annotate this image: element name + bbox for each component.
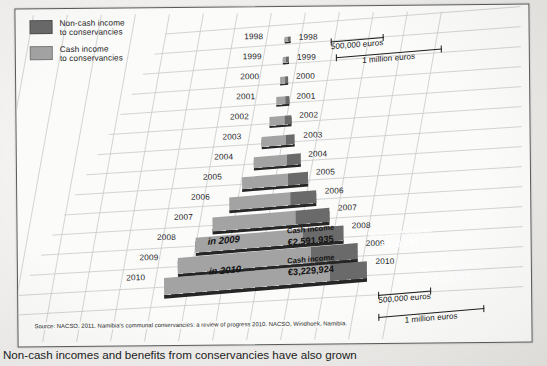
- year-label-right-2005: 2005: [316, 168, 335, 177]
- year-label-right-2003: 2003: [303, 130, 322, 139]
- year-label-left-1998: 1998: [244, 32, 263, 41]
- year-label-left-2004: 2004: [214, 152, 233, 161]
- bar-segment-noncash-2000: [285, 76, 288, 83]
- year-label-right-2006: 2006: [325, 186, 344, 195]
- year-label-right-2010: 2010: [375, 257, 394, 266]
- year-label-right-2007: 2007: [338, 204, 357, 213]
- year-label-left-2002: 2002: [230, 112, 249, 121]
- year-label-left-2010: 2010: [126, 273, 145, 282]
- year-label-right-2009: 2009: [366, 239, 385, 248]
- bar-segment-noncash-2001: [285, 96, 289, 104]
- year-label-left-2008: 2008: [157, 233, 176, 242]
- year-label-right-1998: 1998: [299, 32, 318, 41]
- legend-label-cash: Cash income to conservancies: [60, 44, 123, 63]
- year-label-left-2000: 2000: [240, 72, 259, 81]
- legend-label-non-cash: Non-cash income to conservancies: [59, 18, 124, 37]
- legend-item-non-cash: Non-cash income to conservancies: [29, 18, 169, 38]
- bar-2001: [276, 96, 289, 105]
- year-label-right-2008: 2008: [352, 221, 371, 230]
- bar-segment-noncash-2006: [291, 190, 317, 205]
- year-label-right-2001: 2001: [296, 92, 315, 101]
- year-label-left-2006: 2006: [191, 193, 210, 202]
- year-label-right-1999: 1999: [297, 52, 316, 61]
- bar-segment-cash-2003: [262, 135, 286, 147]
- bar-segment-noncash-2007: [296, 208, 330, 225]
- bar-segment-noncash-2002: [285, 115, 291, 125]
- year-label-left-2001: 2001: [236, 92, 255, 101]
- bar-segment-cash-2002: [270, 116, 286, 126]
- bar-1998: [285, 36, 291, 42]
- bar-segment-noncash-2004: [286, 153, 300, 165]
- bar-segment-noncash-1999: [286, 56, 289, 62]
- legend-label-cash-line2: to conservancies: [60, 54, 123, 64]
- legend-swatch-cash: [30, 46, 53, 60]
- year-label-left-2007: 2007: [174, 213, 193, 222]
- bar-2000: [280, 76, 288, 84]
- bar-segment-cash-2001: [276, 96, 285, 105]
- chart-figure: Non-cash income to conservancies Cash in…: [0, 0, 547, 366]
- chart-plot-area: Non-cash income to conservancies Cash in…: [15, 5, 531, 347]
- bar-segment-noncash-1998: [288, 36, 291, 41]
- legend-item-cash: Cash income to conservancies: [30, 44, 170, 64]
- year-label-right-2000: 2000: [296, 72, 315, 81]
- bar-2002: [270, 115, 292, 126]
- legend-label-non-cash-line2: to conservancies: [60, 28, 123, 38]
- figure-caption: Non-cash incomes and benefits from conse…: [3, 348, 543, 366]
- year-label-left-1999: 1999: [243, 52, 262, 61]
- chart-frame: Non-cash income to conservancies Cash in…: [14, 4, 532, 348]
- bar-segment-noncash-2010: [331, 261, 368, 281]
- bar-segment-noncash-2003: [286, 134, 296, 145]
- bar-1999: [283, 56, 289, 63]
- year-label-left-2003: 2003: [222, 132, 241, 141]
- legend-swatch-non-cash: [29, 20, 52, 34]
- year-label-left-2005: 2005: [203, 172, 222, 181]
- chart-legend: Non-cash income to conservancies Cash in…: [29, 18, 169, 71]
- legend-label-cash-line1: Cash income: [60, 44, 109, 53]
- year-label-left-2009: 2009: [139, 253, 158, 262]
- year-label-right-2004: 2004: [308, 149, 327, 158]
- legend-label-non-cash-line1: Non-cash income: [59, 18, 124, 28]
- year-label-right-2002: 2002: [299, 111, 318, 120]
- bar-segment-noncash-2005: [288, 172, 308, 185]
